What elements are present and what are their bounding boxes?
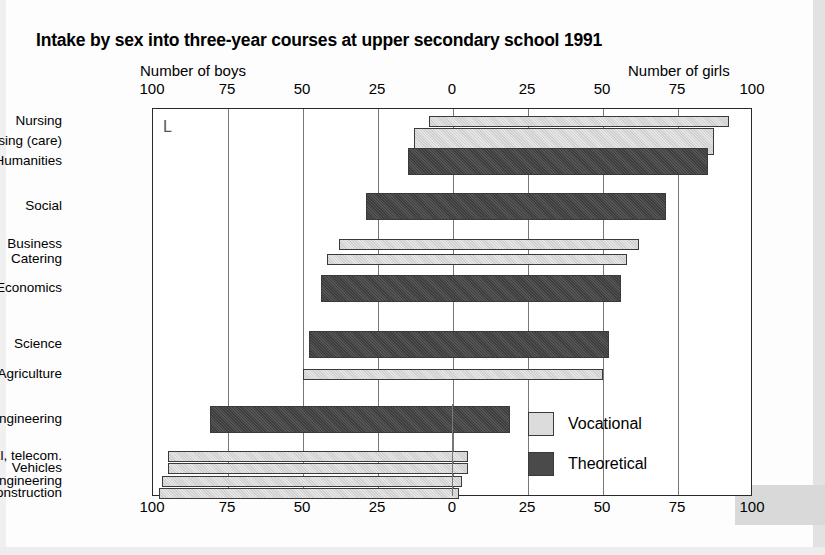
bar [210, 406, 510, 433]
axis-tick-label: 0 [448, 80, 456, 97]
legend: Vocational Theoretical [516, 404, 744, 490]
bar [168, 451, 468, 462]
axis-tick-label: 25 [369, 498, 386, 515]
bar [429, 116, 729, 127]
axis-tick-label: 0 [448, 498, 456, 515]
legend-item-vocational: Vocational [528, 412, 642, 436]
category-label: Catering [11, 251, 62, 266]
axis-tick-label: 50 [294, 80, 311, 97]
category-label: Humanities [0, 153, 62, 168]
axis-tick-label: 50 [594, 80, 611, 97]
axis-tick-label: 100 [739, 80, 764, 97]
bar [303, 369, 603, 380]
bar [366, 193, 666, 220]
bar [408, 148, 708, 175]
legend-divider-line [452, 404, 453, 496]
axis-tick-label: 75 [669, 498, 686, 515]
category-label: Business [7, 236, 62, 251]
legend-swatch-vocational [528, 412, 554, 436]
axis-label-girls: Number of girls [628, 62, 730, 79]
scan-edge-right [813, 0, 825, 555]
axis-tick-label: 50 [594, 498, 611, 515]
axis-tick-label: 75 [669, 80, 686, 97]
category-label: Nursing (care) [0, 133, 62, 148]
axis-tick-label: 25 [519, 80, 536, 97]
category-label: Economics [0, 280, 62, 295]
scan-edge-bottom [0, 547, 825, 555]
bar [327, 254, 627, 265]
bar [168, 463, 468, 474]
axis-tick-label: 100 [139, 80, 164, 97]
axis-tick-label: 100 [739, 498, 764, 515]
axis-tick-label: 25 [369, 80, 386, 97]
legend-label-vocational: Vocational [568, 415, 642, 433]
bar [309, 331, 609, 358]
gridline [378, 109, 379, 495]
chart-title: Intake by sex into three-year courses at… [36, 30, 602, 51]
axis-tick-label: 100 [139, 498, 164, 515]
category-label: Engineering [0, 411, 62, 426]
axis-label-boys: Number of boys [140, 62, 246, 79]
category-label: Science [14, 336, 62, 351]
legend-item-theoretical: Theoretical [528, 452, 647, 476]
bar [321, 275, 621, 302]
axis-tick-label: 75 [219, 80, 236, 97]
axis-tick-label: 50 [294, 498, 311, 515]
bar [339, 239, 639, 250]
category-label: Construction [0, 485, 62, 500]
gridline [228, 109, 229, 495]
axis-tick-label: 25 [519, 498, 536, 515]
category-label: Social [25, 198, 62, 213]
category-label: Agriculture [0, 366, 62, 381]
stray-mark-l: L [163, 118, 172, 136]
gridline [303, 109, 304, 495]
legend-label-theoretical: Theoretical [568, 455, 647, 473]
bar [159, 488, 459, 499]
axis-tick-label: 75 [219, 498, 236, 515]
bar [162, 476, 462, 487]
category-label: Nursing [15, 113, 62, 128]
legend-swatch-theoretical [528, 452, 554, 476]
